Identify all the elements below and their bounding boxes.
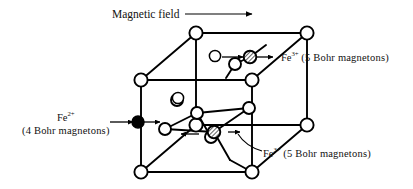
atom-open bbox=[189, 26, 202, 39]
fe2-charge: 2+ bbox=[67, 110, 74, 117]
fe2-note: (4 Bohr magnetons) bbox=[22, 124, 110, 137]
atom-open bbox=[134, 165, 147, 178]
atom-open bbox=[191, 107, 203, 119]
lattice-diagram-svg bbox=[0, 0, 413, 189]
filled-atoms bbox=[132, 116, 144, 128]
fe2-ion-line: Fe2+ bbox=[22, 110, 110, 124]
fe3-bottom-note: (5 Bohr magnetons) bbox=[283, 148, 371, 159]
figure-canvas: Magnetic field Fe3+ (5 Bohr magnetons) F… bbox=[0, 0, 413, 189]
atom-open bbox=[209, 50, 220, 61]
atom-open bbox=[245, 73, 258, 86]
atom-open bbox=[134, 73, 147, 86]
fe3-top-ion: Fe bbox=[281, 52, 292, 63]
fe3-bottom-label: Fe3+ (5 Bohr magnetons) bbox=[263, 146, 371, 159]
fe3-bottom-charge: 3+ bbox=[274, 146, 281, 153]
atom-open bbox=[172, 92, 183, 103]
fe3-bottom-leader bbox=[238, 134, 262, 151]
atom-open bbox=[300, 118, 313, 131]
atom-filled-fe2 bbox=[132, 116, 144, 128]
fe3-bottom-ion: Fe bbox=[263, 148, 274, 159]
atom-hatched-fe3-top bbox=[244, 51, 257, 64]
atom-open bbox=[300, 26, 313, 39]
fe2-ion: Fe bbox=[57, 112, 68, 123]
atom-open bbox=[189, 118, 202, 131]
atom-open bbox=[229, 58, 241, 70]
fe3-top-charge: 3+ bbox=[292, 50, 299, 57]
fe2-left-label: Fe2+ (4 Bohr magnetons) bbox=[22, 110, 110, 137]
fe3-top-note: (5 Bohr magnetons) bbox=[301, 52, 389, 63]
atom-open bbox=[243, 102, 255, 114]
fe3-top-label: Fe3+ (5 Bohr magnetons) bbox=[281, 50, 389, 63]
magnetic-field-label: Magnetic field bbox=[112, 8, 179, 20]
atom-open bbox=[159, 123, 171, 135]
atom-hatched-fe3-bottom bbox=[208, 126, 221, 139]
atom-open bbox=[245, 165, 258, 178]
